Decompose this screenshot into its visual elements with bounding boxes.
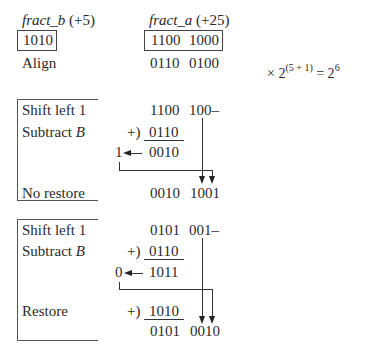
dividend-low: 1000 [189,32,219,48]
step2-subtract-label: Subtract B [22,243,85,259]
step1-carry: 1 [115,144,123,160]
step2-restore-op: +) [127,303,140,319]
step1-carry-line [130,153,142,154]
aligned-high: 0110 [150,55,179,71]
step1-shift-label: Shift left 1 [22,102,86,118]
step2-subtract-text: Subtract [22,243,76,259]
step1-sum-rule [144,140,184,141]
step2-bit-drop [202,238,203,317]
step1-result-low: 1001 [190,185,220,201]
fract-b-name: fract_b [22,12,65,28]
scale-factor: × 2(5 + 1) = 26 [267,60,340,82]
fract-a-name: fract_a [149,12,192,28]
step1-subtract-text: Subtract [22,124,76,140]
step2-result-high: 0101 [150,323,180,339]
step2-sum: 1011 [149,264,178,280]
step1-subtract-var: B [76,124,85,140]
step2-carry: 0 [115,264,123,280]
step1-addend: 0110 [149,124,178,140]
step1-subtract-label: Subtract B [22,124,85,140]
step2-subtract-var: B [76,243,85,259]
step2-result-label: Restore [22,303,68,319]
step2-result-low: 0010 [190,323,220,339]
step1-shifted-high: 1100 [150,102,179,118]
fract-b-label: fract_b (+5) [22,12,95,28]
step2-add-op: +) [127,243,140,259]
step1-result-label: No restore [22,185,85,201]
step2-shifted-low: 001– [189,222,219,238]
step1-add-op: +) [127,124,140,140]
scale-equals: = 2 [313,66,335,81]
divisor-value: 1010 [23,32,53,48]
step1-quotient-arrow-icon [209,176,215,184]
step2-shift-label: Shift left 1 [22,222,86,238]
step1-sum: 0010 [149,144,179,160]
step1-shifted-low: 100– [189,102,219,118]
aligned-low: 0100 [189,55,219,71]
fract-b-exponent: (+5) [65,12,95,28]
scale-exponent: (5 + 1) [285,62,312,73]
fract-a-label: fract_a (+25) [149,12,230,28]
step2-shifted-high: 0101 [150,222,180,238]
step2-sum-rule [144,259,184,260]
step2-carry-down [212,289,213,317]
step1-bit-arrow-icon [199,176,205,184]
step2-carry-line [131,273,143,274]
scale-prefix: × 2 [267,66,285,81]
scale-result-exponent: 6 [335,62,340,73]
step1-bit-drop [202,118,203,177]
align-label: Align [22,55,56,71]
step1-carry-route [119,170,213,171]
step2-addend: 0110 [149,243,178,259]
step2-restore-addend: 1010 [149,303,179,319]
step2-carry-route [119,289,213,290]
step1-result-high: 0010 [150,185,180,201]
step2-restore-rule [144,319,184,320]
dividend-high: 1100 [151,32,180,48]
fract-a-exponent: (+25) [192,12,229,28]
